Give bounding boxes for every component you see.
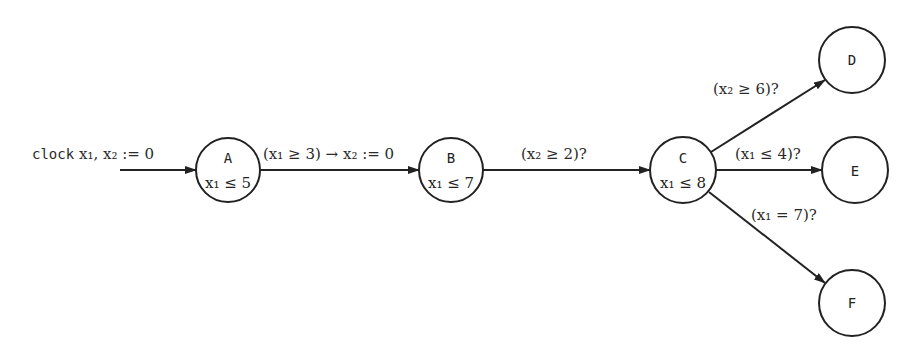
state-b-name: B xyxy=(447,150,455,166)
state-b-circle xyxy=(419,138,483,202)
initial-label: clock x₁, x₂ := 0 xyxy=(32,145,154,163)
state-c-invariant: x₁ ≤ 8 xyxy=(660,174,706,192)
state-f-name: F xyxy=(848,295,856,311)
edge-c-f-label: (x₁ = 7)? xyxy=(751,206,817,224)
edge-b-c-label: (x₂ ≥ 2)? xyxy=(521,145,587,163)
state-a-circle xyxy=(196,138,260,202)
edge-a-b-label: (x₁ ≥ 3) → x₂ := 0 xyxy=(263,145,394,163)
state-a-name: A xyxy=(224,150,232,166)
state-e-name: E xyxy=(851,163,859,179)
state-c-name: C xyxy=(679,150,687,166)
state-a-invariant: x₁ ≤ 5 xyxy=(205,174,251,192)
state-c-circle xyxy=(650,137,716,203)
clock-keyword: clock xyxy=(32,146,74,162)
edge-c-d-label: (x₂ ≥ 6)? xyxy=(713,80,779,98)
state-b-invariant: x₁ ≤ 7 xyxy=(428,174,474,192)
state-d-name: D xyxy=(848,52,856,68)
edge-c-e-label: (x₁ ≤ 4)? xyxy=(735,145,801,163)
clock-reset: x₁, x₂ := 0 xyxy=(79,145,154,163)
